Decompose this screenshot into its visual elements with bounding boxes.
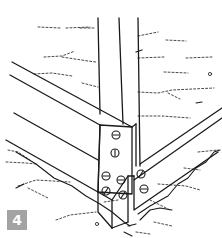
screw-heads [102, 131, 148, 199]
small-pebble [208, 72, 211, 75]
step-number-badge: 4 [7, 210, 27, 230]
illustration: 4 [0, 0, 222, 238]
left-board [6, 62, 132, 192]
frame-corner-drawing [0, 0, 222, 238]
small-pebble [95, 222, 98, 225]
